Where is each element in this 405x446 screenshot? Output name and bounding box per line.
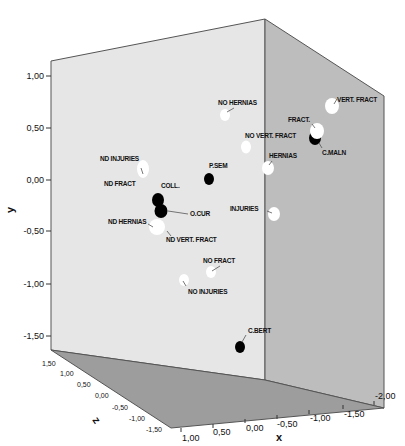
point-label: FRACT. [288, 116, 310, 123]
point-label: NO INJURIES [188, 288, 228, 295]
point-label: INJURIES [230, 205, 259, 212]
point-label: HERNIAS [269, 152, 298, 159]
point-marker [262, 161, 274, 175]
x-tick: 0,50 [213, 427, 231, 437]
point-marker [268, 207, 280, 221]
scatter-3d-chart: 1,00 0,50 0,00 -0,50 -1,00 -1,50 y 1,50 … [0, 0, 405, 446]
z-tick: -1,50 [146, 426, 162, 433]
point-label: COLL. [161, 182, 180, 189]
point-label: VERT. FRACT [337, 96, 377, 103]
x-tick: -1,00 [310, 413, 331, 423]
point-label: O.CUR [190, 210, 210, 217]
point-marker [155, 204, 168, 218]
y-tick: -1,50 [23, 331, 44, 341]
x-tick: 0,00 [246, 423, 264, 433]
point-marker [137, 160, 149, 178]
y-tick: 1,00 [26, 71, 44, 81]
y-axis-label: y [4, 206, 16, 213]
point-label: ND INJURIES [100, 155, 140, 162]
side-wall [265, 19, 384, 408]
point-marker [179, 274, 189, 286]
point-label: C.MALN [322, 149, 347, 156]
point-label: NO VERT. FRACT [245, 132, 296, 139]
z-tick: -1,00 [129, 415, 145, 422]
z-tick: 0,00 [95, 392, 109, 399]
z-tick: 1,00 [60, 370, 74, 377]
y-axis: 1,00 0,50 0,00 -0,50 -1,00 -1,50 y [4, 71, 51, 341]
point-label: C.BERT [248, 327, 271, 334]
point-label: NO HERNIAS [218, 99, 258, 106]
x-tick: -0,50 [277, 419, 298, 429]
z-tick: -0,50 [112, 404, 128, 411]
point-marker [310, 123, 324, 139]
point-label: ND FRACT [104, 180, 136, 187]
y-tick: -0,50 [23, 226, 44, 236]
point-marker [241, 141, 251, 154]
point-label: P.SEM [209, 162, 227, 169]
point-marker [206, 266, 216, 278]
point-marker [149, 219, 165, 235]
point-label: ND HERNIAS [108, 218, 147, 225]
x-tick: 1,00 [182, 433, 200, 443]
x-axis-label: x [276, 431, 283, 443]
z-axis-label: z [90, 414, 103, 426]
point-marker [235, 341, 245, 353]
x-tick: -1,50 [344, 409, 365, 419]
y-tick: 0,00 [26, 175, 44, 185]
z-tick: 1,50 [42, 360, 56, 367]
z-tick: 0,50 [77, 381, 91, 388]
y-tick: 0,50 [26, 123, 44, 133]
point-marker [204, 173, 214, 185]
x-tick: -2,00 [375, 391, 396, 401]
point-label: ND VERT. FRACT [166, 236, 217, 243]
point-label: NO FRACT [203, 257, 235, 264]
y-tick: -1,00 [23, 279, 44, 289]
